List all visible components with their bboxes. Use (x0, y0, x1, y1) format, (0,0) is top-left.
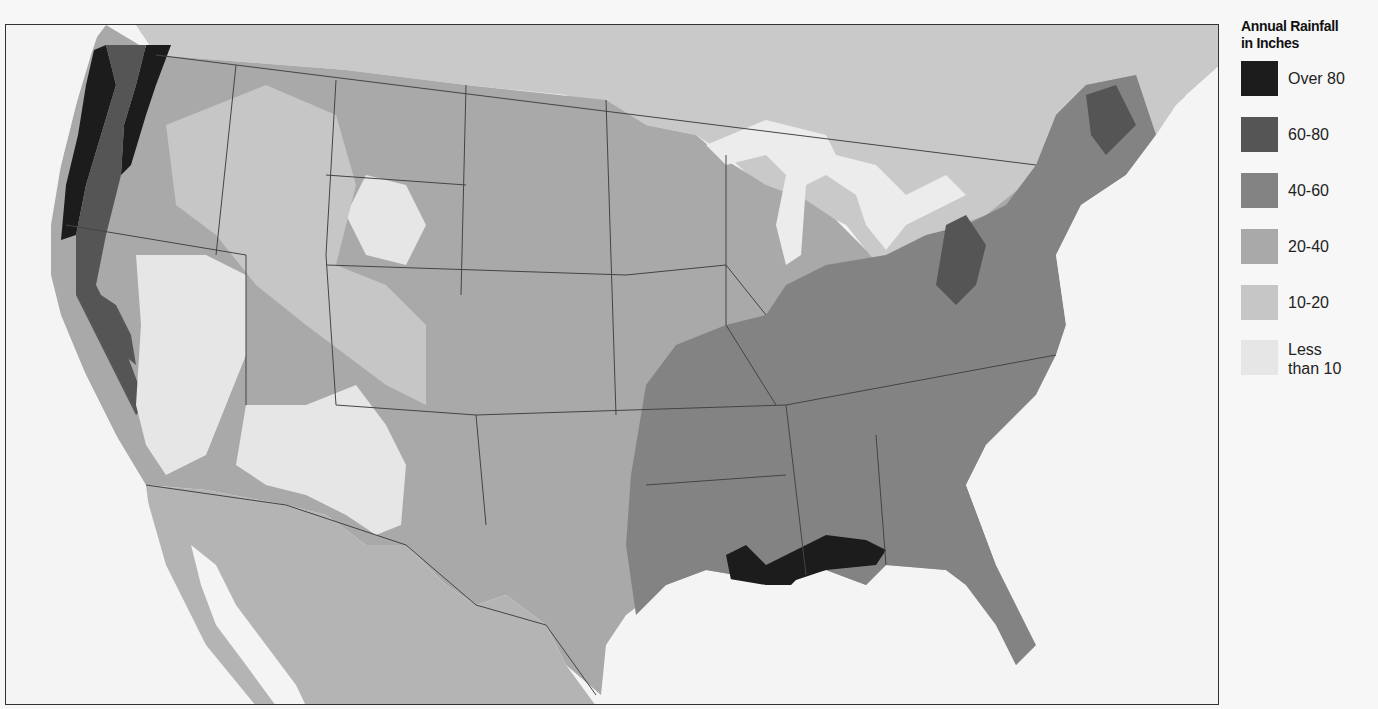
legend-item-40-60: 40-60 (1241, 172, 1376, 208)
legend-label: 20-40 (1288, 237, 1329, 256)
legend-swatch-less-than-10 (1241, 340, 1278, 375)
legend-item-60-80: 60-80 (1241, 116, 1376, 152)
rainfall-map (5, 24, 1219, 705)
legend-label-line1: Less (1288, 340, 1341, 359)
legend-label: 40-60 (1288, 181, 1329, 200)
legend-item-over-80: Over 80 (1241, 60, 1376, 96)
legend-title: Annual Rainfall in Inches (1241, 18, 1376, 52)
legend-item-10-20: 10-20 (1241, 284, 1376, 320)
legend-label: Over 80 (1288, 69, 1345, 88)
legend-swatch-10-20 (1241, 285, 1278, 320)
gulf-of-mexico (606, 575, 1016, 705)
legend-label: 60-80 (1288, 125, 1329, 144)
legend-swatch-over-80 (1241, 61, 1278, 96)
legend-swatch-60-80 (1241, 117, 1278, 152)
legend-swatch-20-40 (1241, 229, 1278, 264)
legend-item-20-40: 20-40 (1241, 228, 1376, 264)
legend-label: Less than 10 (1288, 340, 1341, 378)
legend-title-line2: in Inches (1241, 35, 1376, 52)
legend-label-line2: than 10 (1288, 359, 1341, 378)
legend-label: 10-20 (1288, 293, 1329, 312)
legend-title-line1: Annual Rainfall (1241, 18, 1376, 35)
legend-item-less-than-10: Less than 10 (1241, 340, 1376, 376)
legend-swatch-40-60 (1241, 173, 1278, 208)
map-canvas (6, 25, 1219, 705)
legend: Annual Rainfall in Inches Over 80 60-80 … (1241, 18, 1376, 396)
